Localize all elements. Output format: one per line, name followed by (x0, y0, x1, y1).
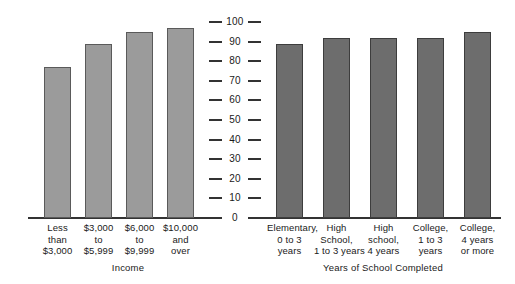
axis-tick: 70 (205, 75, 265, 86)
tick-mark-left (209, 21, 222, 23)
bar-series-education (276, 0, 515, 218)
axis-tick: 10 (205, 193, 265, 204)
category-label: $10,000andover (158, 222, 203, 257)
category-label-line: to (117, 234, 162, 246)
panel-income (0, 0, 212, 219)
bar[interactable] (464, 32, 491, 218)
category-label-line: 1 to 3 years (314, 245, 359, 257)
axis-tick-label: 40 (222, 135, 248, 145)
category-label-line: Elementary, (267, 222, 312, 234)
bar[interactable] (167, 28, 194, 218)
axis-tick: 30 (205, 154, 265, 165)
bar[interactable] (323, 38, 350, 218)
category-label-line: $5,999 (76, 245, 121, 257)
category-label: $6,000to$9,999 (117, 222, 162, 257)
bar[interactable] (370, 38, 397, 218)
axis-tick: 90 (205, 36, 265, 47)
category-label: College,4 yearsor more (455, 222, 500, 257)
category-label-line: over (158, 245, 203, 257)
axis-tick-label: 90 (222, 37, 248, 47)
axis-tick-label: 10 (222, 193, 248, 203)
bar[interactable] (276, 44, 303, 218)
tick-mark-left (209, 158, 222, 160)
category-label-line: Less (35, 222, 80, 234)
category-label-line: than (35, 234, 80, 246)
axis-tick: 20 (205, 173, 265, 184)
tick-mark-left (209, 41, 222, 43)
tick-mark-left (209, 178, 222, 180)
category-label: College,1 to 3years (408, 222, 453, 257)
category-label-line: $3,000 (35, 245, 80, 257)
category-label: Lessthan$3,000 (35, 222, 80, 257)
axis-tick: 80 (205, 56, 265, 67)
category-label-line: 4 years (455, 234, 500, 246)
tick-mark-left (209, 217, 222, 219)
bar[interactable] (85, 44, 112, 218)
tick-mark-left (209, 80, 222, 82)
bar[interactable] (417, 38, 444, 218)
category-label-line: School, (314, 234, 359, 246)
axis-tick-label: 30 (222, 154, 248, 164)
axis-title-income: Income (44, 262, 212, 273)
category-label-line: 0 to 3 (267, 234, 312, 246)
tick-mark-left (209, 139, 222, 141)
category-label-line: years (408, 245, 453, 257)
tick-mark-left (209, 60, 222, 62)
category-label-line: $3,000 (76, 222, 121, 234)
bar[interactable] (44, 67, 71, 218)
axis-tick: 100 (205, 17, 265, 28)
axis-tick: 50 (205, 115, 265, 126)
category-label-line: school, (361, 234, 406, 246)
category-label: Highschool,4 years (361, 222, 406, 257)
category-label-line: $6,000 (117, 222, 162, 234)
bar-series-income (44, 0, 212, 218)
category-label-line: $10,000 (158, 222, 203, 234)
axis-title-education: Years of School Completed (258, 262, 508, 273)
category-label-line: to (76, 234, 121, 246)
category-label: Elementary,0 to 3years (267, 222, 312, 257)
axis-tick-label: 0 (222, 213, 248, 223)
panel-education (258, 0, 515, 219)
axis-tick-label: 100 (222, 17, 248, 27)
value-axis: 0102030405060708090100 (205, 0, 265, 219)
category-label-line: High (314, 222, 359, 234)
axis-tick: 0 (205, 213, 265, 224)
category-label: HighSchool,1 to 3 years (314, 222, 359, 257)
tick-mark-left (209, 197, 222, 199)
category-labels-education: Elementary,0 to 3yearsHighSchool,1 to 3 … (276, 222, 515, 262)
axis-tick-label: 50 (222, 115, 248, 125)
axis-tick-label: 60 (222, 95, 248, 105)
bar[interactable] (126, 32, 153, 218)
category-label-line: or more (455, 245, 500, 257)
category-label-line: 1 to 3 (408, 234, 453, 246)
bar-chart: 0102030405060708090100 Lessthan$3,000$3,… (0, 0, 515, 284)
axis-tick-label: 80 (222, 56, 248, 66)
category-label-line: High (361, 222, 406, 234)
category-label-line: and (158, 234, 203, 246)
axis-tick-label: 70 (222, 76, 248, 86)
category-label-line: College, (455, 222, 500, 234)
category-label: $3,000to$5,999 (76, 222, 121, 257)
category-label-line: $9,999 (117, 245, 162, 257)
category-label-line: years (267, 245, 312, 257)
category-label-line: 4 years (361, 245, 406, 257)
axis-tick: 40 (205, 134, 265, 145)
category-label-line: College, (408, 222, 453, 234)
axis-tick-label: 20 (222, 174, 248, 184)
tick-mark-left (209, 119, 222, 121)
tick-mark-left (209, 99, 222, 101)
axis-tick: 60 (205, 95, 265, 106)
category-labels-income: Lessthan$3,000$3,000to$5,999$6,000to$9,9… (44, 222, 212, 262)
